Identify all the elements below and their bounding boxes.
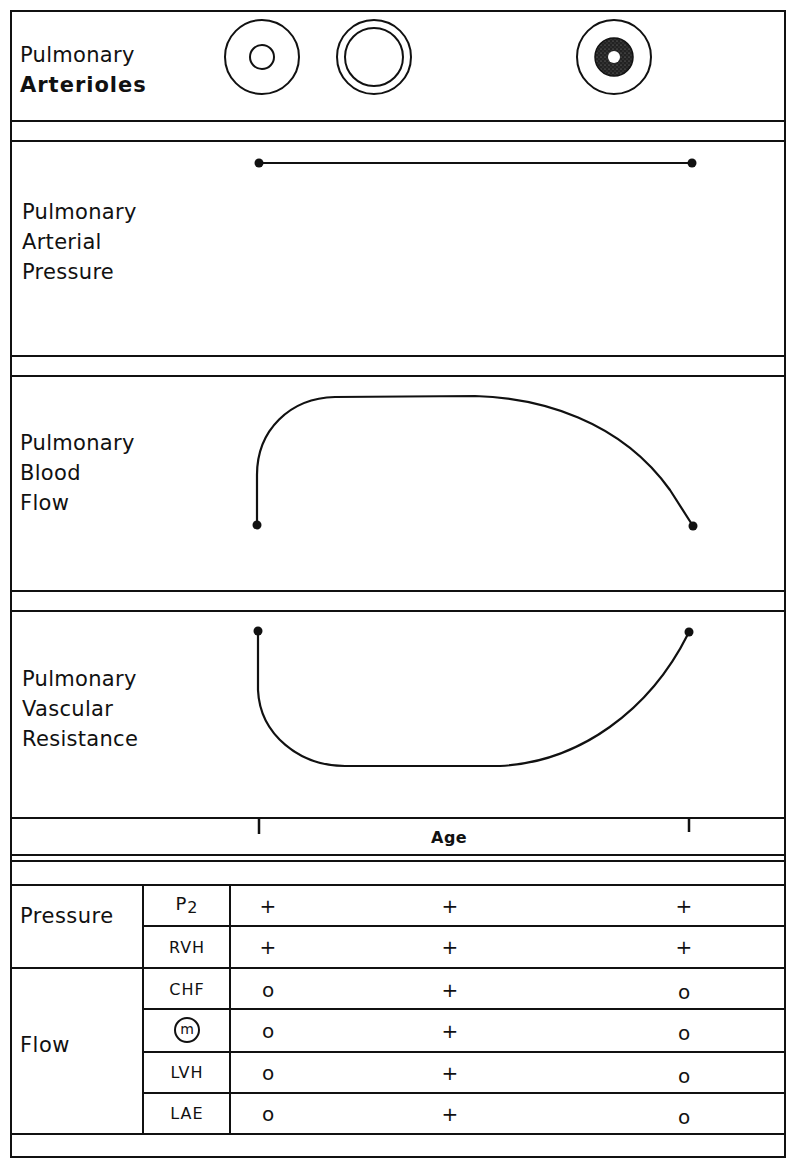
table-cell: + [669, 896, 699, 916]
blood-flow-curve [253, 396, 698, 531]
row-label-chf: CHF [143, 980, 231, 999]
diagram: Pulmonary Arterioles Pulmonary Arterial … [0, 0, 794, 1170]
table-cell: o [253, 1063, 283, 1083]
age-axis-label: Age [431, 828, 467, 847]
pressure-curve [255, 159, 697, 168]
table-cell: o [669, 1107, 699, 1127]
age-axis-ticks [259, 818, 689, 834]
dilated-arteriole-icon [337, 20, 411, 94]
table-cell: + [435, 1021, 465, 1041]
row-label-lae: LAE [143, 1104, 231, 1123]
table-cell: + [435, 937, 465, 957]
table-cell: o [253, 1021, 283, 1041]
table-cell: o [669, 1066, 699, 1086]
table-cell: + [253, 937, 283, 957]
normal-arteriole-icon [225, 20, 299, 94]
table-cell: + [669, 937, 699, 957]
row-label-p2: P2 [143, 893, 231, 919]
table-cell: o [669, 1023, 699, 1043]
table-cell: + [435, 1063, 465, 1083]
table-cell: + [435, 1104, 465, 1124]
vascular-resistance-curve [254, 627, 694, 767]
row-label-rvh: RVH [143, 938, 231, 957]
row-label-lvh: LVH [143, 1063, 231, 1082]
table-cell: + [435, 896, 465, 916]
row-label-murmur: m [143, 1017, 231, 1043]
table-cell: o [253, 1104, 283, 1124]
table-cell: o [253, 980, 283, 1000]
table-cell: o [669, 982, 699, 1002]
thickened-arteriole-icon [577, 20, 651, 94]
table-cell: + [253, 896, 283, 916]
table-cell: + [435, 980, 465, 1000]
circled-m-icon: m [174, 1017, 200, 1043]
group-label-flow: Flow [20, 1033, 70, 1057]
group-label-pressure: Pressure [20, 904, 114, 928]
